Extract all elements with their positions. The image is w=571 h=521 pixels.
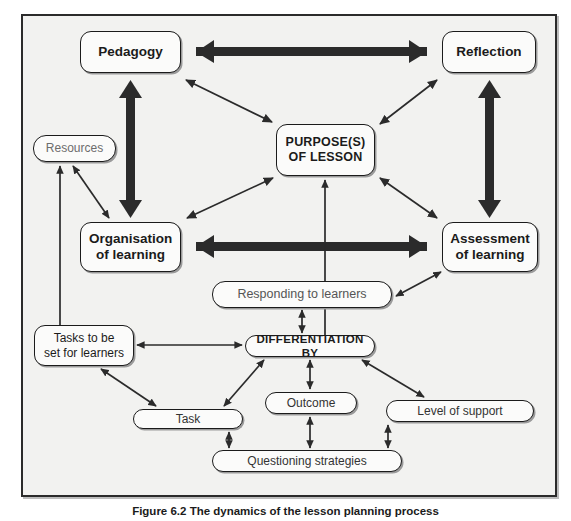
node-pedagogy[interactable]: Pedagogy bbox=[80, 31, 181, 73]
edge-reflection-purpose bbox=[380, 80, 437, 124]
edge-pedagogy-organisation bbox=[119, 80, 142, 218]
node-questioning-strategies[interactable]: Questioning strategies bbox=[212, 450, 402, 472]
node-organisation-of-learning[interactable]: Organisation of learning bbox=[80, 222, 181, 272]
node-pedagogy-label: Pedagogy bbox=[94, 44, 167, 60]
node-responding-label: Responding to learners bbox=[233, 287, 370, 302]
node-task[interactable]: Task bbox=[133, 409, 243, 429]
node-assessment-line2: of learning bbox=[446, 247, 534, 263]
figure-root: Pedagogy Reflection PURPOSE(S) OF LESSON… bbox=[0, 0, 571, 521]
node-differentiation-by[interactable]: DIFFERENTIATION BY bbox=[245, 335, 375, 357]
edge-level-differentiation bbox=[362, 360, 424, 397]
edge-organisation-assessment bbox=[196, 235, 427, 258]
node-tasks-text: Tasks to be set for learners bbox=[36, 331, 132, 360]
edge-organisation-purpose bbox=[187, 178, 273, 218]
node-outcome-label: Outcome bbox=[283, 396, 340, 411]
node-task-label: Task bbox=[172, 412, 205, 427]
node-tasks-line2: set for learners bbox=[40, 346, 128, 361]
node-purpose-line1: PURPOSE(S) bbox=[282, 135, 370, 150]
edge-assessment-purpose bbox=[380, 178, 437, 218]
edge-tasks-task bbox=[101, 369, 156, 406]
figure-caption: Figure 6.2 The dynamics of the lesson pl… bbox=[0, 505, 571, 517]
node-level-of-support[interactable]: Level of support bbox=[386, 400, 534, 422]
node-purpose-of-lesson[interactable]: PURPOSE(S) OF LESSON bbox=[276, 124, 375, 176]
node-responding-to-learners[interactable]: Responding to learners bbox=[212, 281, 392, 308]
node-assessment-line1: Assessment bbox=[446, 231, 534, 247]
node-resources-label: Resources bbox=[42, 141, 107, 156]
edge-assessment-responding bbox=[396, 272, 441, 296]
edge-reflection-assessment bbox=[478, 80, 501, 218]
node-level-label: Level of support bbox=[413, 404, 506, 419]
node-organisation-line1: Organisation bbox=[85, 231, 176, 247]
node-outcome[interactable]: Outcome bbox=[265, 392, 357, 414]
edge-task-differentiation bbox=[224, 360, 264, 406]
node-reflection[interactable]: Reflection bbox=[442, 31, 536, 73]
node-questioning-label: Questioning strategies bbox=[243, 454, 370, 469]
node-assessment-of-learning[interactable]: Assessment of learning bbox=[442, 222, 538, 272]
edge-resources-organisation bbox=[73, 166, 109, 218]
node-resources[interactable]: Resources bbox=[33, 135, 116, 162]
node-differentiation-label: DIFFERENTIATION BY bbox=[246, 332, 374, 360]
node-purpose-line2: OF LESSON bbox=[282, 150, 370, 165]
node-tasks-line1: Tasks to be bbox=[40, 331, 128, 346]
node-organisation-line2: of learning bbox=[85, 247, 176, 263]
edge-pedagogy-purpose bbox=[186, 80, 272, 122]
edge-pedagogy-reflection bbox=[196, 40, 427, 63]
node-assessment-text: Assessment of learning bbox=[442, 231, 538, 264]
node-tasks-to-be-set-for-learners[interactable]: Tasks to be set for learners bbox=[34, 325, 134, 366]
node-organisation-text: Organisation of learning bbox=[81, 231, 180, 264]
node-reflection-label: Reflection bbox=[452, 44, 525, 60]
node-purpose-text: PURPOSE(S) OF LESSON bbox=[278, 135, 374, 166]
